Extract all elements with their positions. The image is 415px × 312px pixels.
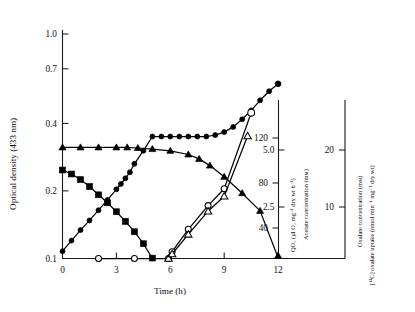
series-acetate-line — [63, 170, 153, 259]
data-point — [87, 184, 93, 190]
data-point — [69, 238, 74, 243]
x-ticklabel-3: 3 — [114, 265, 119, 275]
data-point — [248, 109, 255, 116]
data-point — [206, 162, 213, 168]
qo2-ticklabel-120: 120 — [254, 133, 268, 143]
data-point — [275, 252, 282, 258]
series-optical-density-line — [63, 84, 279, 251]
acetate-ticklabel-2-5: 2.5 — [263, 202, 275, 212]
oxalate-ticklabel-10: 10 — [325, 202, 335, 212]
data-point — [231, 124, 236, 129]
data-point — [222, 130, 227, 135]
y-ticklabel-1-0: 1.0 — [45, 29, 57, 39]
y-axis-left-ticks: 0.1 0.2 0.4 0.7 1.0 — [45, 29, 68, 264]
y-axis-oxalate-conc-title: Oxalate concentration (mᴍ) — [356, 176, 364, 247]
series-oxalate-concentration-markers — [59, 144, 282, 258]
y-ticklabel-0-2: 0.2 — [45, 186, 57, 196]
data-point — [123, 176, 128, 181]
qo2-ticklabel-80: 80 — [259, 178, 269, 188]
data-point — [221, 193, 228, 199]
data-point — [123, 219, 129, 225]
data-point — [177, 134, 182, 139]
data-point — [114, 209, 120, 215]
data-point — [114, 187, 119, 192]
data-point — [204, 134, 209, 139]
data-point — [244, 132, 251, 138]
y-ticklabel-0-7: 0.7 — [45, 64, 57, 74]
x-ticklabel-0: 0 — [60, 265, 65, 275]
data-point — [96, 192, 102, 198]
acetate-ticklabel-5-0: 5.0 — [263, 145, 275, 155]
data-point — [132, 161, 137, 166]
data-point — [186, 134, 191, 139]
data-point — [96, 208, 101, 213]
data-point — [213, 133, 218, 138]
y-axis-qo2-title: QO₂ (µl O₂ mg⁻¹ dry wt h⁻¹) — [289, 178, 297, 252]
data-point — [132, 229, 138, 235]
data-point — [105, 200, 111, 206]
y-axis-acetate-title: Acetate concentration (mᴍ) — [302, 169, 310, 240]
chart-svg: 0.1 0.2 0.4 0.7 1.0 0 3 6 9 12 40 80 1 — [0, 0, 415, 312]
data-point — [168, 134, 173, 139]
data-point — [150, 134, 155, 139]
series-optical-density-markers — [60, 81, 281, 254]
data-point — [118, 182, 123, 187]
series-oxalate-concentration-line — [63, 147, 279, 257]
data-point — [87, 218, 92, 223]
y-ticklabel-0-1: 0.1 — [45, 254, 57, 264]
data-point — [96, 256, 102, 262]
data-point — [258, 98, 263, 103]
series-oxalate-uptake-markers — [165, 132, 252, 261]
series-acetate-markers — [60, 167, 156, 261]
series-oxalate-uptake — [165, 132, 252, 261]
figure-container: 0.1 0.2 0.4 0.7 1.0 0 3 6 9 12 40 80 1 — [0, 0, 415, 312]
series-optical-density — [60, 81, 281, 254]
x-ticklabel-12: 12 — [273, 265, 283, 275]
data-point — [78, 177, 84, 183]
y-axis-oxalate-uptake-title: [¹⁴C] oxalate uptake (nmol min⁻¹ mg⁻¹ dr… — [368, 165, 376, 285]
data-point — [127, 170, 132, 175]
data-point — [275, 81, 281, 87]
data-point — [267, 89, 272, 94]
data-point — [60, 249, 65, 254]
data-point — [131, 256, 137, 262]
y-axis-left-title: Optical density (433 nm) — [8, 118, 18, 210]
x-ticklabel-6: 6 — [168, 265, 173, 275]
data-point — [60, 167, 66, 173]
data-point — [195, 134, 200, 139]
data-point — [240, 117, 245, 122]
x-ticklabel-9: 9 — [222, 265, 227, 275]
y-axis-oxalate-ticks: 10 20 — [325, 145, 345, 212]
data-point — [78, 228, 83, 233]
data-point — [69, 171, 75, 177]
series-acetate — [60, 167, 156, 261]
data-point — [159, 134, 164, 139]
oxalate-ticklabel-20: 20 — [325, 145, 335, 155]
y-ticklabel-0-4: 0.4 — [45, 119, 57, 129]
data-point — [141, 241, 147, 247]
x-axis-title: Time (h) — [154, 286, 186, 296]
series-oxalate-concentration — [59, 144, 282, 258]
